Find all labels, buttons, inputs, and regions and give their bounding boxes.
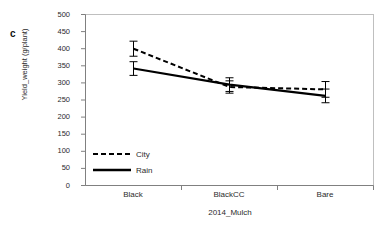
legend-label: Rain <box>136 166 152 175</box>
y-axis-ticks <box>81 15 86 186</box>
chart-legend: City Rain <box>92 146 152 178</box>
legend-swatch-dashed-icon <box>92 149 132 159</box>
x-axis-title: 2014_Mulch <box>85 208 375 217</box>
x-category-label: Black <box>93 190 173 199</box>
legend-item-rain: Rain <box>92 162 152 178</box>
x-category-label: BlackCC <box>189 190 269 199</box>
legend-label: City <box>136 150 150 159</box>
x-category-label: Bare <box>285 190 365 199</box>
legend-item-city: City <box>92 146 152 162</box>
legend-swatch-solid-icon <box>92 165 132 175</box>
chart-figure: c Yield_weight (g/plant) 500 450 400 350… <box>0 0 383 229</box>
